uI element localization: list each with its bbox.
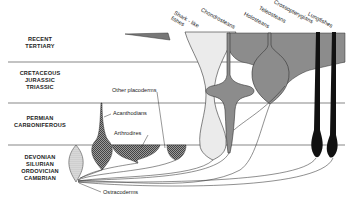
period-recent-tertiary: RECENT TERTIARY bbox=[0, 36, 80, 50]
period-label: TRIASSIC bbox=[0, 84, 80, 91]
period-label: PERMIAN bbox=[0, 115, 80, 122]
label-other-placoderms: Other placoderms bbox=[112, 87, 156, 93]
period-label: CAMBRIAN bbox=[0, 175, 80, 182]
period-mesozoic: CRETACEOUS JURASSIC TRIASSIC bbox=[0, 70, 80, 91]
shark-top-wedge bbox=[125, 33, 170, 40]
label-ostracoderms: Ostracoderms bbox=[103, 189, 138, 195]
period-label: ORDOVICIAN bbox=[0, 168, 80, 175]
period-label: JURASSIC bbox=[0, 77, 80, 84]
period-label: DEVONIAN bbox=[0, 154, 80, 161]
period-label: RECENT bbox=[0, 36, 80, 43]
period-label: SILURIAN bbox=[0, 161, 80, 168]
period-early-paleozoic: DEVONIAN SILURIAN ORDOVICIAN CAMBRIAN bbox=[0, 154, 80, 182]
label-arthrodires: Arthrodires bbox=[114, 130, 141, 136]
period-label: CARBONIFEROUS bbox=[0, 122, 80, 129]
arthrodires-shape bbox=[112, 145, 160, 163]
label-acanthodians: Acanthodians bbox=[113, 110, 147, 116]
acanthodians-shape bbox=[92, 103, 113, 170]
period-label: CRETACEOUS bbox=[0, 70, 80, 77]
phylogeny-diagram: RECENT TERTIARY CRETACEOUS JURASSIC TRIA… bbox=[0, 0, 352, 200]
period-late-paleozoic: PERMIAN CARBONIFEROUS bbox=[0, 115, 80, 129]
other-placoderms-shape bbox=[167, 145, 186, 160]
period-label: TERTIARY bbox=[0, 43, 80, 50]
